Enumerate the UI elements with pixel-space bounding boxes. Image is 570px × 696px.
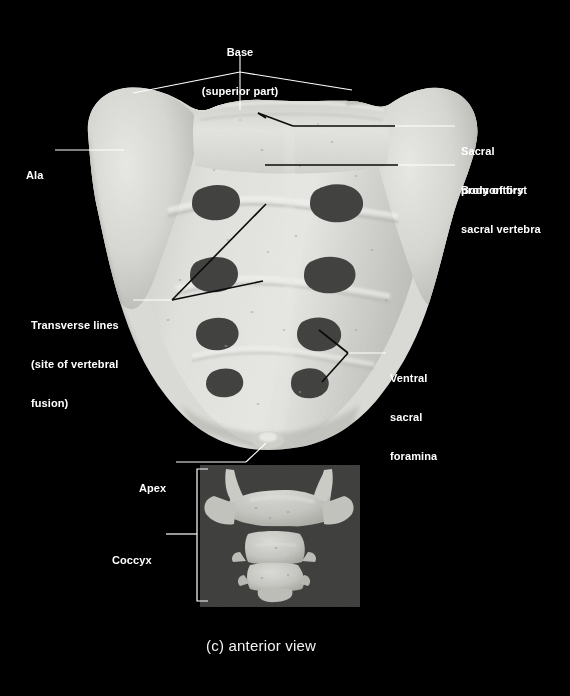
label-body-first-sacral-vertebra-line1: Body of first: [461, 184, 541, 197]
label-body-of-first-sacral-vertebra: Body of first sacral vertebra: [461, 158, 541, 262]
label-transverse-lines-line1: Transverse lines: [31, 319, 119, 332]
figure-caption: (c) anterior view: [206, 637, 316, 654]
label-body-first-sacral-vertebra-line2: sacral vertebra: [461, 223, 541, 236]
label-apex: Apex: [139, 456, 166, 521]
label-sacral-promontory-line1: Sacral: [461, 145, 524, 158]
label-coccyx-line1: Coccyx: [112, 554, 152, 567]
sacral-apex: [252, 431, 284, 449]
figure-canvas: Base (superior part) Ala Sacral promonto…: [0, 0, 570, 696]
label-base-line1: Base: [198, 46, 282, 59]
label-coccyx: Coccyx: [112, 528, 152, 593]
label-apex-line1: Apex: [139, 482, 166, 495]
label-ala: Ala: [26, 143, 43, 208]
label-transverse-lines: Transverse lines (site of vertebral fusi…: [31, 293, 119, 436]
label-ventral-sacral-foramina-line1: Ventral: [390, 372, 437, 385]
label-ventral-sacral-foramina-line3: foramina: [390, 450, 437, 463]
label-transverse-lines-line2: (site of vertebral: [31, 358, 119, 371]
label-ala-line1: Ala: [26, 169, 43, 182]
label-transverse-lines-line3: fusion): [31, 397, 119, 410]
label-ventral-sacral-foramina: Ventral sacral foramina: [390, 346, 437, 489]
label-base-line2: (superior part): [198, 85, 282, 98]
coccyx-bone: [200, 465, 360, 607]
label-ventral-sacral-foramina-line2: sacral: [390, 411, 437, 424]
label-base-superior-part: Base (superior part): [198, 20, 282, 124]
